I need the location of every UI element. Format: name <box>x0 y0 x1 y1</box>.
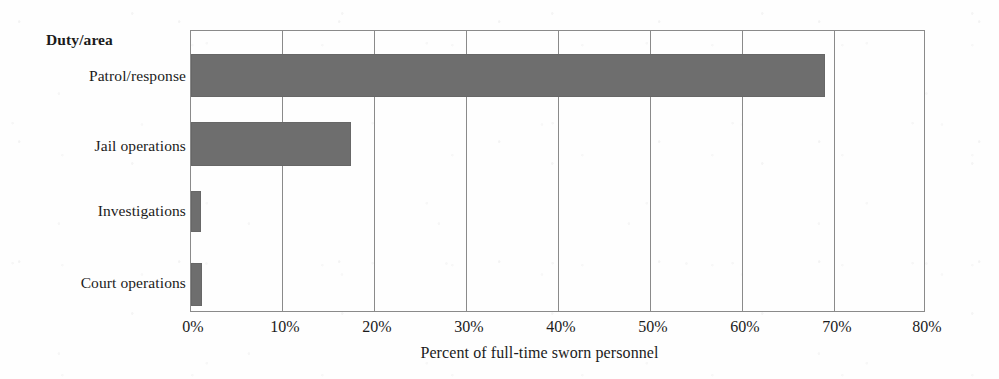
bar-court-operations <box>191 263 202 306</box>
xtick-label-10: 10% <box>270 318 299 336</box>
plot-area <box>190 30 925 312</box>
xtick-label-20: 20% <box>362 318 391 336</box>
category-label-court-operations: Court operations <box>81 275 186 291</box>
category-label-patrol-response: Patrol/response <box>89 68 186 84</box>
xtick-label-80: 80% <box>912 318 941 336</box>
category-label-jail-operations: Jail operations <box>95 138 186 154</box>
bar-jail-operations <box>191 122 351 166</box>
x-axis-title: Percent of full-time sworn personnel <box>0 344 999 362</box>
category-label-investigations: Investigations <box>98 203 186 219</box>
gridline-70 <box>834 31 835 311</box>
xtick-label-70: 70% <box>822 318 851 336</box>
bar-patrol-response <box>191 54 825 97</box>
x-axis-title-text: Percent of full-time sworn personnel <box>420 344 658 361</box>
xtick-label-40: 40% <box>546 318 575 336</box>
xtick-label-0: 0% <box>182 318 203 336</box>
chart-page: Duty/area Patrol/response Jail operation… <box>0 0 999 379</box>
xtick-label-30: 30% <box>454 318 483 336</box>
xtick-label-60: 60% <box>730 318 759 336</box>
bar-investigations <box>191 191 201 232</box>
category-label-column: Patrol/response Jail operations Investig… <box>0 0 186 379</box>
xtick-label-50: 50% <box>638 318 667 336</box>
